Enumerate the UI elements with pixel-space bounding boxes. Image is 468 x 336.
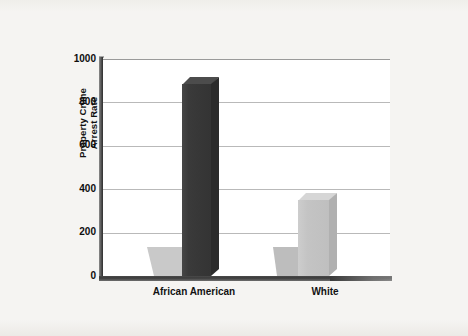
y-axis-spine bbox=[99, 57, 103, 279]
page-edge-top bbox=[0, 0, 468, 12]
bar-side-face-african-american bbox=[211, 77, 220, 276]
bar-african-american[interactable] bbox=[182, 84, 211, 276]
plot-area bbox=[103, 59, 390, 276]
gridline-600 bbox=[103, 146, 390, 147]
gridline-800 bbox=[103, 102, 390, 103]
x-tick-label-white: White bbox=[270, 286, 380, 297]
bar-front-face-white bbox=[298, 200, 329, 276]
chart-figure: Property Crime Arrest Rate 1000 800 600 … bbox=[0, 0, 468, 336]
y-tick-label-800: 800 bbox=[52, 96, 96, 107]
y-tick-label-200: 200 bbox=[52, 226, 96, 237]
gridline-1000 bbox=[103, 59, 390, 60]
y-tick-label-600: 600 bbox=[52, 139, 96, 150]
x-tick-label-african-american: African American bbox=[139, 286, 249, 297]
bar-front-face-african-american bbox=[182, 84, 211, 276]
bar-white[interactable] bbox=[298, 200, 329, 276]
page-edge-bottom bbox=[0, 320, 468, 336]
bar-shadow-african-american bbox=[147, 218, 183, 276]
y-tick-label-0: 0 bbox=[52, 270, 96, 281]
bar-side-face-white bbox=[329, 193, 338, 276]
gridline-400 bbox=[103, 189, 390, 190]
bar-shadow-white bbox=[273, 247, 301, 276]
y-tick-label-400: 400 bbox=[52, 183, 96, 194]
y-tick-label-1000: 1000 bbox=[52, 53, 96, 64]
x-axis-floor-taper bbox=[330, 276, 392, 281]
